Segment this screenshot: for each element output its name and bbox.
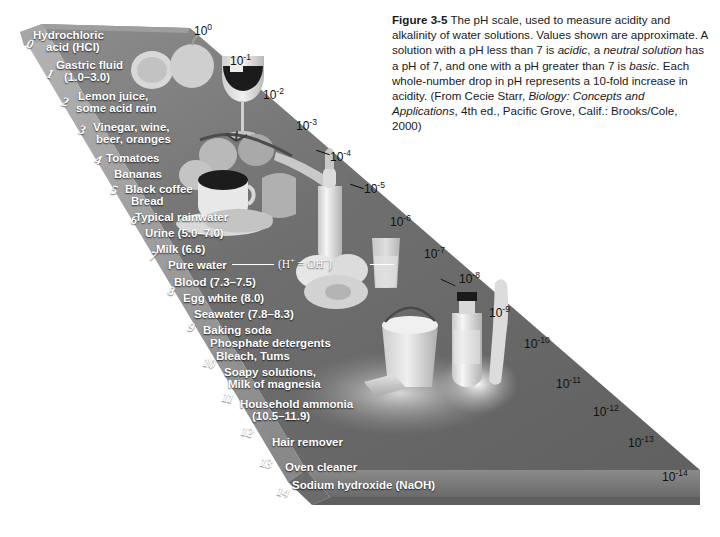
figure-container: 01234567891011121314 Hydrochloricacid (H… <box>0 0 720 537</box>
substance-label: Baking soda <box>203 324 271 336</box>
power-exponent: -5 <box>377 180 385 190</box>
concentration-10e-2: 10-2 <box>263 86 284 102</box>
power-base: 10 <box>263 88 276 102</box>
concentration-10e-7: 10-7 <box>424 245 445 261</box>
substance-label: Oven cleaner <box>285 461 357 473</box>
substance-label: Urine (5.0–7.0) <box>145 227 224 239</box>
bleach-label <box>454 330 480 364</box>
power-exponent: -8 <box>472 270 480 280</box>
power-exponent: -11 <box>569 375 581 385</box>
substance-label: Typical rainwater <box>135 211 228 223</box>
power-exponent: -3 <box>309 117 317 127</box>
substance-label: Soapy solutions, <box>224 366 316 378</box>
substance-label: Tomatoes <box>106 152 159 164</box>
power-exponent: 0 <box>207 22 212 32</box>
power-base: 10 <box>194 24 207 38</box>
substance-label: Sodium hydroxide (NaOH) <box>292 479 435 491</box>
power-base: 10 <box>593 405 606 419</box>
substance-label: Egg white (8.0) <box>183 292 264 304</box>
power-base: 10 <box>230 54 243 68</box>
substance-label: Seawater (7.8–8.3) <box>194 308 294 320</box>
substance-label: Bread <box>131 195 164 207</box>
power-exponent: -10 <box>537 335 549 345</box>
substance-label: (1.0–3.0) <box>64 71 110 83</box>
concentration-10e-8: 10-8 <box>459 270 480 286</box>
concentration-10e-4: 10-4 <box>330 148 351 164</box>
concentration-10e-12: 10-12 <box>593 403 619 419</box>
power-base: 10 <box>390 215 403 229</box>
substance-label: Bleach, Tums <box>216 350 290 362</box>
power-base: 10 <box>556 377 569 391</box>
power-base: 10 <box>524 337 537 351</box>
bottle-neck <box>323 168 336 188</box>
substance-label: Household ammonia <box>240 398 353 410</box>
powder-plume-photo <box>489 279 508 385</box>
water-level <box>374 256 398 287</box>
power-exponent: -14 <box>675 468 687 478</box>
wine-stem <box>241 101 244 133</box>
bucket-rim <box>382 316 438 334</box>
power-base: 10 <box>489 306 502 320</box>
substance-label: Black coffee <box>125 183 193 195</box>
formula-middle: = OH <box>295 258 324 270</box>
power-exponent: -1 <box>243 52 251 62</box>
substance-label: (10.5–11.9) <box>252 410 310 422</box>
power-base: 10 <box>296 119 309 133</box>
power-exponent: -4 <box>343 148 351 158</box>
formula-suffix: ) <box>328 258 332 270</box>
substance-label: Milk (6.6) <box>156 243 205 255</box>
substance-label: some acid rain <box>76 102 157 114</box>
power-base: 10 <box>330 150 343 164</box>
egg-yolk <box>325 284 351 300</box>
power-base: 10 <box>662 470 675 484</box>
concentration-10e-10: 10-10 <box>524 335 550 351</box>
power-exponent: -9 <box>502 304 510 314</box>
cup-handle <box>248 186 254 204</box>
pure-water-rule-right <box>370 264 394 265</box>
lemon-flesh <box>137 57 167 83</box>
water-equilibrium-formula: (H+ = OH−) <box>278 256 332 270</box>
substance-label: Lemon juice, <box>78 90 148 102</box>
substance-label: Pure water <box>168 259 227 271</box>
substance-label: Bananas <box>114 168 162 180</box>
substance-label: Vinegar, wine, <box>93 121 170 133</box>
concentration-10e-11: 10-11 <box>556 375 581 391</box>
bleach-cap <box>457 292 477 301</box>
power-base: 10 <box>459 272 472 286</box>
caption-run: , a <box>587 43 603 56</box>
concentration-10e0: 100 <box>194 22 212 38</box>
substance-label: Milk of magnesia <box>228 378 321 390</box>
substance-label: beer, oranges <box>96 133 171 145</box>
power-base: 10 <box>364 182 377 196</box>
power-exponent: -13 <box>641 434 653 444</box>
concentration-10e-14: 10-14 <box>662 468 688 484</box>
power-exponent: -2 <box>276 86 284 96</box>
concentration-10e-6: 10-6 <box>390 213 411 229</box>
concentration-10e-1: 10-1 <box>230 52 251 68</box>
power-base: 10 <box>424 247 437 261</box>
caption-run: neutral solution <box>603 43 682 56</box>
substance-label: Phosphate detergents <box>210 337 331 349</box>
power-base: 10 <box>628 436 641 450</box>
figure-caption: Figure 3-5 The pH scale, used to measure… <box>392 12 710 134</box>
substance-label: acid (HCl) <box>46 41 100 53</box>
caption-run: basic <box>629 59 656 72</box>
bleach-neck <box>459 300 475 314</box>
pure-water-rule-left <box>232 264 274 265</box>
substance-label: Hydrochloric <box>33 29 104 41</box>
substance-label: Hair remover <box>272 436 343 448</box>
squeeze-bottle-photo <box>318 186 342 262</box>
substance-label: Gastric fluid <box>56 59 123 71</box>
concentration-10e-13: 10-13 <box>628 434 654 450</box>
substance-label: Blood (7.3–7.5) <box>174 276 256 288</box>
onion-photo <box>170 44 214 88</box>
power-exponent: -12 <box>606 403 618 413</box>
power-exponent: -6 <box>403 213 411 223</box>
bread-photo <box>262 173 296 218</box>
power-exponent: -7 <box>437 245 445 255</box>
concentration-10e-3: 10-3 <box>296 117 317 133</box>
concentration-10e-5: 10-5 <box>364 180 385 196</box>
concentration-10e-9: 10-9 <box>489 304 510 320</box>
figure-label: Figure 3-5 <box>392 13 447 26</box>
formula-prefix: (H <box>278 258 290 270</box>
